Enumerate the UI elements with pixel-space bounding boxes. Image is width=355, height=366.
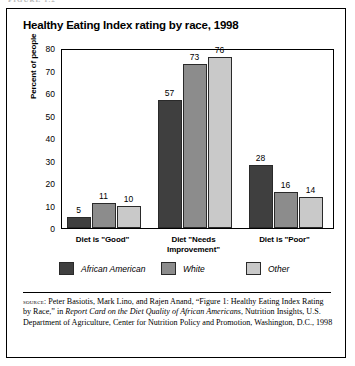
bar[interactable]	[208, 57, 232, 228]
bar[interactable]	[183, 64, 207, 228]
bar[interactable]	[158, 100, 182, 228]
bar-value-label: 73	[182, 53, 208, 62]
bar-value-label: 11	[91, 192, 117, 201]
legend-item[interactable]: Other	[246, 262, 289, 275]
legend-swatch	[59, 262, 74, 275]
legend-swatch	[161, 262, 176, 275]
figure-card: Healthy Eating Index rating by race, 199…	[6, 8, 346, 358]
y-axis-tick-label: 50	[31, 113, 55, 121]
bar[interactable]	[249, 165, 273, 228]
y-axis-tick-label: 20	[31, 180, 55, 188]
plot-area: 51110577376281614	[61, 49, 334, 229]
bar[interactable]	[299, 197, 323, 229]
y-axis-label: Percent of people	[29, 75, 38, 87]
source-italic-title: Report Card on the Diet Quality of Afric…	[65, 307, 241, 316]
y-axis-tick-label: 80	[31, 45, 55, 53]
y-axis-tick-label: 0	[31, 225, 55, 233]
x-axis-category-label: Diet "Needs Improvement"	[149, 235, 239, 254]
bar-value-label: 57	[157, 89, 183, 98]
bar-group: 281614	[249, 50, 323, 228]
chart-legend: African AmericanWhiteOther	[21, 262, 333, 284]
bar-value-label: 16	[273, 181, 299, 190]
y-axis-tick-label: 10	[31, 203, 55, 211]
chart-title: Healthy Eating Index rating by race, 199…	[23, 19, 239, 31]
y-axis-tick-label: 30	[31, 158, 55, 166]
y-axis-tick-label: 60	[31, 90, 55, 98]
legend-label: White	[183, 264, 205, 274]
bar-value-label: 28	[248, 154, 274, 163]
legend-label: Other	[268, 264, 289, 274]
bar-value-label: 76	[207, 46, 233, 55]
bar-value-label: 10	[116, 195, 142, 204]
legend-swatch	[246, 262, 261, 275]
legend-item[interactable]: White	[161, 262, 205, 275]
bar[interactable]	[67, 217, 91, 228]
bar-group: 51110	[67, 50, 141, 228]
bar-group: 577376	[158, 50, 232, 228]
source-note: source: Peter Basiotis, Mark Lino, and R…	[23, 297, 333, 328]
bar-series-container: 51110577376281614	[62, 50, 333, 228]
legend-item[interactable]: African American	[59, 262, 145, 275]
bar[interactable]	[92, 203, 116, 228]
legend-label: African American	[81, 264, 145, 274]
divider	[23, 292, 331, 293]
x-axis-category-label: Diet is "Good"	[58, 235, 148, 245]
y-axis-tick-label: 70	[31, 68, 55, 76]
source-label: source:	[23, 297, 46, 306]
bar[interactable]	[274, 192, 298, 228]
bar-value-label: 14	[298, 186, 324, 195]
y-axis-tick-label: 40	[31, 135, 55, 143]
x-axis-category-label: Diet is "Poor"	[240, 235, 330, 245]
page-header-fragment: FIGURE 1.2	[8, 0, 128, 4]
bar-value-label: 5	[66, 206, 92, 215]
bar[interactable]	[117, 206, 141, 229]
